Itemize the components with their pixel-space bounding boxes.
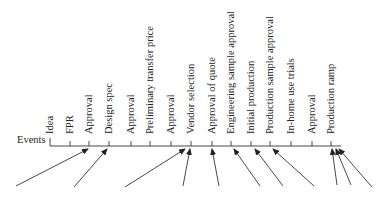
timeline-ticks (50, 138, 331, 146)
event-label: Vendor selection (185, 63, 196, 134)
arrow-icon (183, 149, 190, 186)
event-label: Approval (83, 94, 94, 134)
event-labels: Idea FPR Approval Design spec Approval P… (44, 11, 336, 134)
event-label: Approval (306, 94, 317, 134)
event-label: Initial production (245, 60, 256, 134)
arrow-icon (125, 149, 185, 187)
arrow-icon (332, 149, 337, 185)
arrow-icon (212, 149, 219, 186)
event-label: Design spec (103, 83, 114, 134)
event-arrows (16, 149, 372, 187)
events-axis-label: Events (17, 134, 46, 145)
event-label: Production sample approval (264, 16, 275, 134)
event-timeline-diagram: Events Idea FPR Approval Design spec App… (0, 0, 386, 201)
event-label: Approval of quote (206, 57, 217, 134)
arrow-icon (16, 149, 88, 186)
event-label: In-home use trials (285, 58, 296, 134)
arrow-icon (74, 149, 107, 187)
event-label: Idea (44, 116, 55, 134)
event-label: Production ramp (325, 64, 336, 134)
event-label: Engineering sample approval (225, 11, 236, 134)
arrow-icon (234, 149, 260, 186)
event-label: Preliminary transfer price (144, 26, 155, 134)
event-label: Approval (165, 94, 176, 134)
event-label: Approval (125, 94, 136, 134)
event-label: FPR (64, 115, 75, 134)
